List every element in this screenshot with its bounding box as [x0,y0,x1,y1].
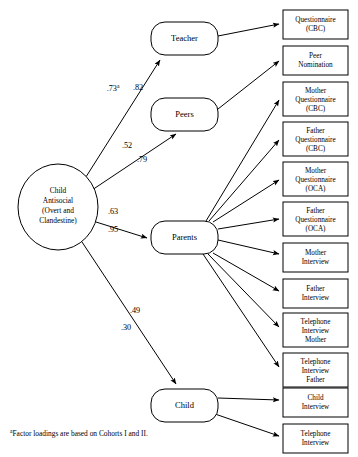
indicator-mother-questionnaire-cbc[interactable]: Mother Questionnaire (CBC) [283,82,348,116]
indicator-telephone-interview-father[interactable]: Telephone Interview Father [283,353,348,387]
path-parents-to-mother-interview [218,240,279,254]
coefficient-parents-upper: .63 [108,207,118,216]
indicator-telephone-interview-mother[interactable]: Telephone Interview Mother [283,313,348,347]
indicator-line-1: Interview [302,403,330,411]
path-parents-to-mother-questionnaire-oca [213,180,279,222]
indicator-line-1: Interview [302,258,330,266]
child-label: Child [175,400,195,410]
coefficient-peers-lower: .79 [137,155,147,164]
indicator-line-0: Father [306,285,325,293]
informant-node-teacher[interactable]: Teacher [151,22,218,55]
diagram-canvas: Child Antisocial (Overt and Clandestine)… [0,0,358,457]
path-parents-to-father-interview [213,253,279,291]
latent-label-line-0: Child [50,186,67,195]
coefficient-value: .73 [107,84,117,93]
indicator-line-1: Questionnaire [295,216,335,224]
footnote-text: Factor loadings are based on Cohorts I a… [12,429,147,438]
informant-node-parents[interactable]: Parents [151,221,218,254]
indicator-line-1: Interview [302,294,330,302]
indicator-line-0: Father [306,207,325,215]
indicator-line-0: Mother [305,167,327,175]
indicator-mother-questionnaire-oca[interactable]: Mother Questionnaire (OCA) [283,162,348,196]
path-child-to-child-interview [218,398,279,400]
indicator-line-1: Questionnaire [295,96,335,104]
indicator-line-1: Interview [302,327,330,335]
figure-footnote: aFactor loadings are based on Cohorts I … [10,428,310,439]
latent-label-line-3: Clandestine) [39,216,77,225]
informant-node-peers[interactable]: Peers [151,98,218,131]
path-peers-to-peer-nomination [218,61,279,109]
indicator-line-1: Questionnaire [295,176,335,184]
path-latent-to-teacher [84,60,160,180]
coefficient-peers-upper: .52 [122,141,132,150]
indicator-line-0: Telephone [301,318,331,326]
indicator-line-1: Interview [302,439,330,447]
path-latent-to-parents [96,222,147,238]
informant-node-child[interactable]: Child [151,389,218,422]
indicator-line-0: Telephone [301,358,331,366]
indicator-line-1: Nomination [298,61,333,69]
coefficient-labels: .73a .82 .52 .79 .63 .95 .49 .30 [107,83,147,332]
path-parents-to-father-questionnaire-oca [218,219,279,229]
coefficient-teacher-upper: .73a [107,83,120,93]
indicator-line-2: Mother [305,336,327,344]
path-teacher-to-questionnaire-cbc [218,24,279,36]
indicator-father-interview[interactable]: Father Interview [283,279,348,308]
path-latent-to-peers [92,134,176,190]
indicator-line-0: Father [306,127,325,135]
indicator-line-2: (OCA) [306,185,327,193]
coefficient-superscript: a [117,83,120,89]
indicator-line-2: (CBC) [306,105,326,113]
parents-label: Parents [172,232,197,242]
indicator-father-questionnaire-oca[interactable]: Father Questionnaire (OCA) [283,202,348,236]
indicator-line-1: Questionnaire [295,136,335,144]
indicator-child-interview[interactable]: Child Interview [283,388,348,417]
path-parents-to-telephone-interview-mother [208,254,279,327]
indicator-line-0: Mother [305,87,327,95]
teacher-label: Teacher [171,33,198,43]
path-parents-to-telephone-interview-father [203,254,279,367]
indicator-line-1: (CBC) [306,25,326,33]
path-parents-to-father-questionnaire-cbc [209,140,279,221]
peers-label: Peers [175,109,193,119]
indicator-line-2: Father [306,376,325,384]
latent-label-line-1: Antisocial [43,196,73,205]
coefficient-child-lower: .30 [121,323,131,332]
indicator-line-2: (OCA) [306,225,327,233]
latent-label-line-2: (Overt and [42,206,74,215]
indicator-line-1: Interview [302,367,330,375]
indicator-line-0: Mother [305,249,327,257]
indicator-mother-interview[interactable]: Mother Interview [283,243,348,272]
latent-variable-child-antisocial[interactable]: Child Antisocial (Overt and Clandestine) [18,164,98,250]
indicator-peer-nomination[interactable]: Peer Nomination [283,46,348,75]
coefficient-teacher-lower: .82 [133,83,143,92]
coefficient-child-upper: .49 [130,306,140,315]
indicator-line-2: (CBC) [306,145,326,153]
indicator-line-0: Child [308,394,324,402]
coefficient-parents-lower: .95 [108,225,118,234]
path-diagram-figure: Child Antisocial (Overt and Clandestine)… [0,0,358,457]
indicator-questionnaire-cbc[interactable]: Questionnaire (CBC) [283,10,348,39]
indicator-line-0: Peer [309,52,322,60]
indicator-father-questionnaire-cbc[interactable]: Father Questionnaire (CBC) [283,122,348,156]
indicator-line-0: Questionnaire [295,16,335,24]
